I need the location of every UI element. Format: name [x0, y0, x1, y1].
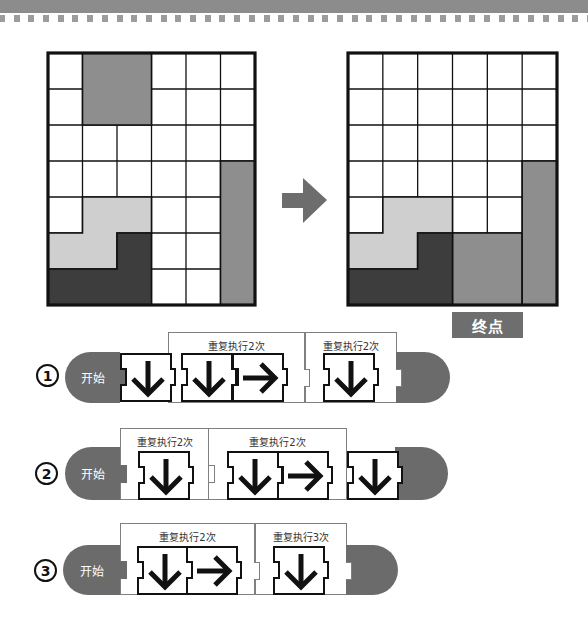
start-label: 开始 — [80, 562, 104, 579]
start-block: 开始 — [63, 545, 120, 595]
end-cap — [346, 545, 398, 595]
goal-label: 终点 — [452, 312, 523, 338]
command-block — [277, 451, 333, 500]
header-dotted-divider — [0, 15, 588, 22]
header-band — [0, 0, 588, 13]
command-block — [273, 546, 329, 595]
repeat-connector-tab — [396, 369, 402, 387]
repeat-connector-tab — [209, 465, 215, 483]
repeat-label: 重复执行2次 — [169, 338, 304, 353]
command-block — [186, 546, 242, 595]
start-board — [48, 53, 255, 305]
command-block — [137, 546, 193, 595]
start-block: 开始 — [65, 447, 120, 500]
piece-bar-1x4 — [221, 161, 256, 305]
end-cap — [396, 352, 450, 403]
piece-square-2x2 — [453, 233, 523, 305]
start-label: 开始 — [81, 465, 105, 482]
start-label: 开始 — [81, 369, 105, 386]
option-marker-2[interactable]: 2 — [35, 462, 58, 485]
piece-square-2x2 — [83, 53, 152, 125]
goal-board — [348, 53, 557, 305]
repeat-label: 重复执行3次 — [256, 529, 346, 544]
command-block — [347, 451, 403, 500]
command-block — [232, 353, 288, 402]
repeat-label: 重复执行2次 — [209, 434, 346, 449]
repeat-label: 重复执行2次 — [121, 529, 254, 544]
command-block — [138, 451, 194, 500]
command-block — [120, 353, 176, 402]
option-marker-1[interactable]: 1 — [36, 364, 59, 387]
repeat-label: 重复执行2次 — [306, 338, 396, 353]
start-block: 开始 — [65, 352, 120, 403]
command-block — [227, 451, 283, 500]
transition-arrow-icon — [280, 176, 330, 226]
command-block — [323, 353, 379, 402]
repeat-connector-tab — [346, 562, 352, 580]
repeat-connector-tab — [254, 562, 260, 580]
repeat-label: 重复执行2次 — [121, 434, 209, 449]
repeat-connector-tab — [304, 369, 310, 387]
option-marker-3[interactable]: 3 — [34, 559, 57, 582]
command-block — [181, 353, 237, 402]
piece-bar-1x4 — [522, 161, 557, 305]
